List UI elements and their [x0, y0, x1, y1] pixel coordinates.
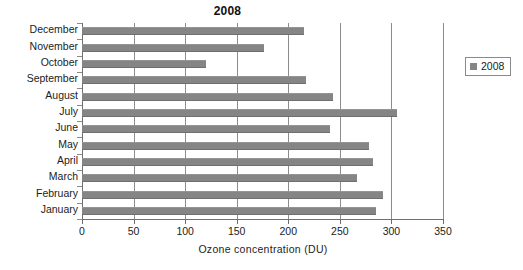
- bar-october: [82, 60, 206, 68]
- x-tickmark-200: [288, 220, 289, 224]
- x-tick-label-50: 50: [114, 225, 154, 237]
- y-tickmark-3: [77, 72, 82, 73]
- y-category-label-november: November: [2, 40, 78, 52]
- x-tickmark-0: [82, 220, 83, 224]
- x-tick-label-250: 250: [320, 225, 360, 237]
- y-category-label-may: May: [2, 138, 78, 150]
- y-tickmark-8: [77, 154, 82, 155]
- gridline-350: [443, 23, 444, 219]
- x-tickmark-300: [391, 220, 392, 224]
- x-tick-label-0: 0: [62, 225, 102, 237]
- y-tickmark-4: [77, 88, 82, 89]
- y-category-label-april: April: [2, 154, 78, 166]
- x-tickmark-350: [443, 220, 444, 224]
- x-tick-label-200: 200: [268, 225, 308, 237]
- y-tickmark-2: [77, 56, 82, 57]
- y-axis-category-labels: DecemberNovemberOctoberSeptemberAugustJu…: [0, 23, 78, 219]
- legend-swatch-icon: [470, 63, 477, 70]
- y-category-label-august: August: [2, 89, 78, 101]
- bar-september: [82, 76, 306, 84]
- x-tick-label-100: 100: [165, 225, 205, 237]
- x-axis-title: Ozone concentration (DU): [82, 243, 444, 255]
- y-tickmark-end: [77, 219, 82, 220]
- y-category-label-february: February: [2, 187, 78, 199]
- x-tick-label-150: 150: [217, 225, 257, 237]
- ozone-concentration-bar-chart: 2008 DecemberNovemberOctoberSeptemberAug…: [0, 0, 523, 270]
- y-category-label-january: January: [2, 203, 78, 215]
- y-category-label-july: July: [2, 105, 78, 117]
- chart-legend: 2008: [465, 57, 511, 76]
- bar-june: [82, 125, 330, 133]
- bar-may: [82, 142, 369, 150]
- gridline-300: [391, 23, 392, 219]
- x-tickmark-50: [134, 220, 135, 224]
- bar-march: [82, 174, 357, 182]
- x-axis-line: [82, 219, 444, 220]
- bar-november: [82, 44, 264, 52]
- y-tickmark-11: [77, 203, 82, 204]
- x-tickmark-250: [340, 220, 341, 224]
- y-tickmark-10: [77, 186, 82, 187]
- y-tickmark-1: [77, 39, 82, 40]
- bar-july: [82, 109, 397, 117]
- bar-february: [82, 191, 383, 199]
- y-category-label-june: June: [2, 121, 78, 133]
- x-tickmark-100: [185, 220, 186, 224]
- bar-december: [82, 27, 304, 35]
- x-tick-label-350: 350: [423, 225, 463, 237]
- y-category-label-december: December: [2, 23, 78, 35]
- bar-august: [82, 93, 333, 101]
- y-category-label-march: March: [2, 170, 78, 182]
- y-tickmark-5: [77, 105, 82, 106]
- plot-area: [82, 23, 443, 219]
- y-category-label-september: September: [2, 72, 78, 84]
- x-tick-label-300: 300: [371, 225, 411, 237]
- chart-title: 2008: [0, 4, 455, 18]
- y-tickmark-9: [77, 170, 82, 171]
- y-tickmark-0: [77, 23, 82, 24]
- y-tickmark-6: [77, 121, 82, 122]
- bar-january: [82, 207, 376, 215]
- y-category-label-october: October: [2, 56, 78, 68]
- bar-april: [82, 158, 373, 166]
- legend-label: 2008: [481, 61, 504, 72]
- y-tickmark-7: [77, 137, 82, 138]
- x-tickmark-150: [237, 220, 238, 224]
